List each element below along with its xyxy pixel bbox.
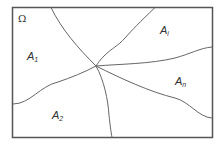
region-label-an: An — [175, 76, 186, 88]
omega-symbol: Ω — [18, 13, 26, 24]
boundary-curve-top-right — [96, 8, 155, 67]
a1-subscript: 1 — [34, 56, 38, 63]
boundary-curve-top-left — [51, 8, 96, 67]
region-label-a1: A1 — [27, 51, 38, 63]
boundary-curve-left — [13, 66, 96, 104]
ai-subscript: i — [167, 30, 169, 37]
a2-subscript: 2 — [59, 115, 63, 122]
region-label-a2: A2 — [52, 110, 63, 122]
region-label-ai: Ai — [160, 25, 169, 37]
domain-boundary — [13, 8, 213, 138]
region-label-omega: Ω — [18, 14, 26, 24]
boundary-curve-right-lower — [96, 66, 212, 118]
partition-diagram — [0, 0, 223, 145]
an-subscript: n — [182, 81, 186, 88]
boundary-curve-right-upper — [96, 47, 212, 66]
boundary-curve-bottom — [96, 66, 112, 138]
